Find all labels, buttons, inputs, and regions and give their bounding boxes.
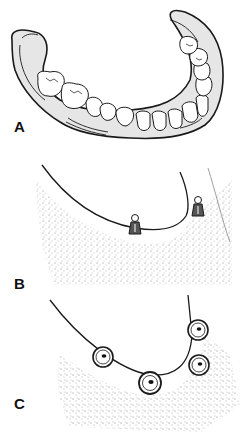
panel-label-c: C	[14, 395, 25, 412]
panel-c: C	[0, 295, 250, 432]
ball-implant-2	[192, 197, 204, 217]
ridge-with-four-implants	[0, 295, 250, 432]
panel-label-a: A	[14, 118, 25, 135]
implant-abutment-2	[139, 372, 161, 394]
implant-abutment-1	[93, 347, 113, 367]
ridge-with-ball-implants	[0, 160, 250, 290]
panel-label-b: B	[14, 275, 25, 292]
implant-abutment-3	[189, 355, 209, 375]
implant-abutment-4	[188, 320, 208, 340]
ball-implant-1	[129, 215, 141, 235]
panel-b: B	[0, 160, 250, 290]
denture-illustration	[0, 0, 250, 140]
panel-a: A	[0, 0, 250, 140]
